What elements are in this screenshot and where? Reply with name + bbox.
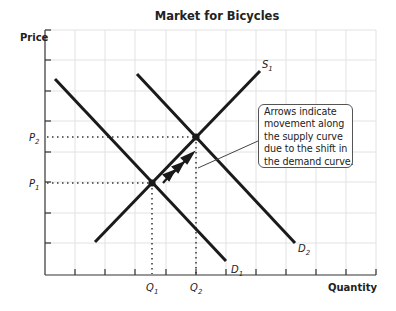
label-p2: P2	[29, 132, 40, 146]
label-p1: P1	[29, 178, 40, 192]
callout-line: due to the shift in	[264, 143, 352, 155]
label-q1: Q1	[146, 282, 158, 296]
y-axis-label: Price	[20, 32, 49, 43]
label-d2: D2	[298, 243, 311, 257]
label-d1: D1	[231, 264, 243, 278]
x-axis-label: Quantity	[328, 282, 377, 293]
label-q2: Q2	[190, 282, 203, 296]
equilibrium-point-e1	[148, 179, 155, 186]
annotation-callout: Arrows indicate movement along the suppl…	[258, 104, 353, 168]
supply-curve-s1	[95, 71, 260, 242]
chart-title: Market for Bicycles	[155, 9, 280, 23]
demand-curve-d1	[55, 79, 226, 261]
callout-line: Arrows indicate	[264, 106, 352, 118]
callout-line: the supply curve	[264, 131, 352, 143]
equilibrium-point-e2	[192, 133, 199, 140]
callout-pointer	[198, 141, 258, 168]
callout-line: the demand curve.	[264, 156, 352, 168]
label-s1: S1	[262, 59, 273, 73]
callout-line: movement along	[264, 118, 352, 130]
